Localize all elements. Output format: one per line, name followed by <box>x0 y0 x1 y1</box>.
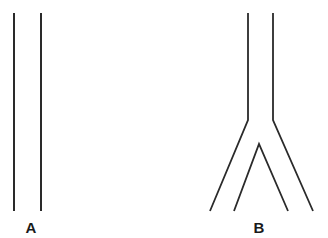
figure-b-left-outer-line <box>210 13 248 211</box>
figure-b-label: B <box>254 219 265 236</box>
figure-a-label: A <box>26 219 37 236</box>
figure-b-inner-fork <box>234 144 288 211</box>
diagram-canvas <box>0 0 328 238</box>
figure-a-lines <box>14 13 41 211</box>
figure-b-lines <box>210 13 313 211</box>
figure-b-right-outer-line <box>273 13 313 211</box>
